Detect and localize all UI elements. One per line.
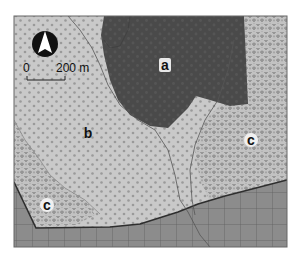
- geologic-map: 0 200 m a b c c: [0, 0, 300, 258]
- svg-text:c: c: [43, 197, 51, 213]
- svg-text:b: b: [84, 125, 93, 141]
- svg-text:c: c: [247, 132, 255, 148]
- scale-end-label: 200 m: [56, 61, 89, 75]
- north-arrow-icon: [32, 31, 58, 57]
- svg-text:a: a: [161, 57, 169, 73]
- label-a: a: [159, 57, 171, 73]
- scale-start-label: 0: [23, 61, 30, 75]
- label-b: b: [84, 125, 93, 141]
